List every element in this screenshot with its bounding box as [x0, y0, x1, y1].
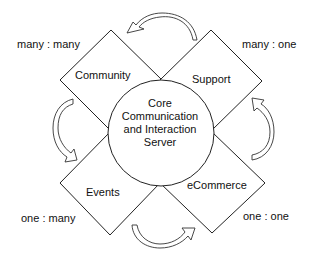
events-relation: one : many: [21, 212, 75, 224]
core-server-line: and Interaction: [110, 123, 210, 136]
community-label: Community: [75, 69, 131, 81]
curved-arrow-icon: [53, 99, 77, 162]
core-server-line: Server: [110, 136, 210, 149]
support-relation: many : one: [242, 38, 296, 50]
core-server-line: Core: [110, 97, 210, 110]
core-server-label: Core Communication and Interaction Serve…: [110, 97, 210, 149]
community-relation: many : many: [17, 38, 80, 50]
core-server-line: Communication: [110, 110, 210, 123]
events-label: Events: [86, 186, 120, 198]
curved-arrow-icon: [127, 13, 197, 40]
curved-arrow-icon: [132, 225, 195, 248]
support-label: Support: [192, 73, 231, 85]
ecommerce-label: eCommerce: [187, 179, 247, 191]
ecommerce-relation: one : one: [243, 210, 289, 222]
diagram: Community Support Events eCommerce many …: [0, 0, 316, 256]
curved-arrow-icon: [252, 98, 274, 160]
